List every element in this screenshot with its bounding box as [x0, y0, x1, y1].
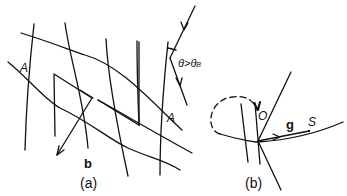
angle-label: θ>θB	[178, 58, 201, 69]
point-S-label: S	[308, 116, 316, 128]
vertical-line-2	[65, 23, 88, 148]
angle-subscript: B	[196, 61, 201, 68]
vertical-line-5	[160, 42, 168, 175]
parallel-line-1	[241, 104, 248, 162]
incident-beam	[170, 6, 195, 58]
caption-b: (b)	[245, 176, 262, 190]
vertical-line-1	[25, 24, 34, 150]
figure: A A b (a) θ>θB O g S (b)	[0, 0, 347, 196]
g-vector-label: g	[286, 118, 294, 131]
dashed-circular-arrow	[211, 97, 257, 134]
burgers-vector-label: b	[84, 157, 92, 170]
diagram-drawing	[0, 0, 347, 196]
point-O-label: O	[258, 110, 267, 122]
diagonal-line-2	[8, 62, 180, 170]
angle-text: θ>θ	[178, 57, 196, 69]
zigzag-tip	[80, 90, 93, 98]
point-S-dot	[308, 130, 310, 132]
label-A-right: A	[167, 112, 175, 124]
label-A-left: A	[20, 62, 28, 74]
zigzag-path	[54, 42, 139, 136]
burgers-vector-line	[57, 98, 92, 155]
caption-a: (a)	[80, 176, 97, 190]
bottom-curve	[220, 122, 343, 142]
diagonal-line-1	[21, 33, 182, 130]
